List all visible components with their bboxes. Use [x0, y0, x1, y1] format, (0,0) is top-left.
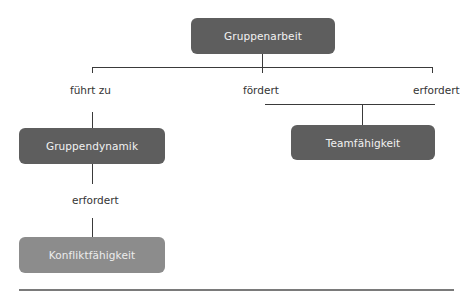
connector-mid-drop	[262, 67, 263, 73]
node-gruppendynamik: Gruppendynamik	[19, 128, 165, 164]
connector-root-stem	[262, 54, 263, 67]
node-konfliktfaehigkeit: Konfliktfähigkeit	[19, 237, 165, 273]
bottom-divider	[19, 289, 454, 291]
edge-label-foerdert: fördert	[243, 84, 279, 96]
connector-gruppendynamik-down	[92, 164, 93, 184]
connector-left-to-gruppendynamik	[92, 112, 93, 128]
node-label: Gruppenarbeit	[224, 30, 302, 42]
node-label: Teamfähigkeit	[326, 137, 401, 149]
node-label: Konfliktfähigkeit	[49, 249, 135, 261]
node-teamfaehigkeit: Teamfähigkeit	[291, 125, 435, 160]
connector-left-drop	[92, 67, 93, 73]
edge-label-erfordert-right: erfordert	[413, 84, 460, 96]
node-label: Gruppendynamik	[46, 140, 138, 152]
connector-to-teamfaehigkeit	[362, 104, 363, 125]
edge-label-fuehrt-zu: führt zu	[70, 84, 111, 96]
connector-right-join	[265, 104, 435, 105]
node-gruppenarbeit: Gruppenarbeit	[191, 18, 335, 54]
edge-label-erfordert-left: erfordert	[72, 194, 119, 206]
connector-to-konfliktfaehigkeit	[92, 218, 93, 237]
connector-right-drop	[432, 67, 433, 73]
